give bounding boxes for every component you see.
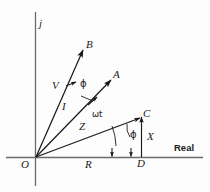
angle-phi-lower-label: ϕ: [130, 130, 137, 140]
phasor-diagram-figure: j Real O B A C D V I Z R X ϕ ϕ ωt: [0, 0, 210, 192]
point-D-label: D: [137, 158, 145, 169]
component-X-label: X: [147, 131, 154, 142]
axis-imaginary-label: j: [39, 18, 42, 29]
vector-V-label: V: [52, 80, 59, 91]
vector-V: [36, 50, 83, 157]
point-A-label: A: [113, 69, 120, 80]
angle-arc-omega-t: [112, 126, 116, 146]
axis-real-label: Real: [174, 143, 194, 153]
phase-tick-cross: [81, 96, 93, 101]
point-B-label: B: [86, 39, 93, 50]
point-C-label: C: [143, 108, 150, 119]
origin-label: O: [21, 159, 29, 170]
vector-I-label: I: [62, 101, 66, 112]
angle-omega-t-label: ωt: [92, 110, 102, 119]
component-R-label: R: [85, 159, 92, 170]
diagram-canvas: [0, 0, 210, 192]
vector-Z-label: Z: [79, 121, 85, 132]
angle-phi-upper-label: ϕ: [80, 79, 87, 89]
component-R: [112, 148, 131, 157]
vector-Z: [36, 118, 140, 157]
